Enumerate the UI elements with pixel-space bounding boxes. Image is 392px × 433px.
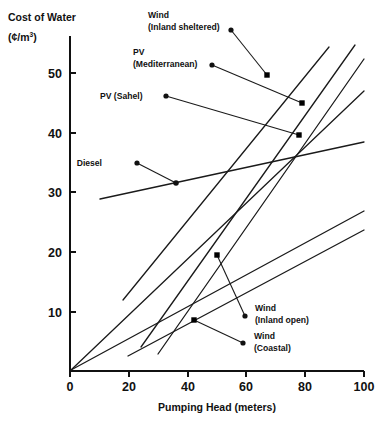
y-axis-title-line2: (¢/m3) (8, 31, 37, 43)
label-pv-mediterranean-line2: (Mediterranean) (133, 59, 198, 69)
annotation-diesel: Diesel (77, 158, 179, 186)
x-tick-label-20: 20 (122, 380, 136, 394)
target-marker-wind-inland-sheltered (264, 72, 269, 77)
anchor-dot-wind-coastal (240, 340, 245, 345)
y-tick-labels: 50 40 30 20 10 (48, 67, 62, 320)
y-tick-label-30: 30 (48, 186, 62, 200)
label-pv-mediterranean-line1: PV (133, 47, 145, 57)
target-marker-pv-mediterranean (299, 100, 304, 105)
x-tick-label-100: 100 (354, 380, 375, 394)
anchor-dot-wind-inland-sheltered (228, 27, 233, 32)
svg-text:(¢/m3): (¢/m3) (8, 31, 37, 43)
anchor-dot-diesel (134, 160, 139, 165)
series-line-wind-coastal-lower (128, 230, 364, 356)
series-line-wind-inland-sheltered (123, 47, 329, 300)
x-tick-labels: 0 20 40 60 80 100 (67, 380, 375, 394)
leader-wind-inland-sheltered (231, 30, 267, 75)
annotation-pv-mediterranean: PV (Mediterranean) (133, 47, 305, 106)
target-marker-diesel (173, 180, 179, 186)
x-tick-label-0: 0 (67, 380, 74, 394)
label-wind-inland-sheltered-line2: (Inland sheltered) (148, 22, 220, 32)
label-pv-sahel: PV (Sahel) (100, 91, 143, 101)
y-tick-label-20: 20 (48, 246, 62, 260)
chart-figure: 50 40 30 20 10 0 20 40 60 80 100 Cost of… (0, 0, 392, 433)
y-axis-units-post: ) (33, 31, 37, 43)
target-marker-pv-sahel (296, 132, 301, 137)
leader-diesel (137, 163, 176, 183)
annotation-wind-inland-open: Wind (Inland open) (214, 252, 309, 325)
leader-wind-coastal (194, 320, 243, 343)
chart-plot-area: 50 40 30 20 10 0 20 40 60 80 100 Cost of… (0, 0, 392, 433)
series-line-wind-coastal (71, 211, 364, 370)
y-tick-label-40: 40 (48, 127, 62, 141)
y-axis-title-line1: Cost of Water (8, 11, 76, 23)
leader-pv-mediterranean (212, 65, 302, 103)
x-axis-title: Pumping Head (meters) (158, 401, 276, 413)
label-wind-inland-sheltered-line1: Wind (148, 10, 169, 20)
x-tick-label-60: 60 (239, 380, 253, 394)
anchor-dot-pv-mediterranean (209, 62, 214, 67)
label-wind-inland-open-line1: Wind (255, 303, 276, 313)
x-tick-label-40: 40 (181, 380, 195, 394)
series-line-diesel (100, 142, 364, 199)
x-tick-label-80: 80 (298, 380, 312, 394)
target-marker-wind-coastal (191, 317, 196, 322)
leader-pv-sahel (166, 96, 299, 135)
series-line-pv-mediterranean (141, 45, 355, 347)
label-wind-coastal-line2: (Coastal) (254, 343, 291, 353)
annotation-pv-sahel: PV (Sahel) (100, 91, 302, 138)
anchor-dot-wind-inland-open (242, 313, 247, 318)
anchor-dot-pv-sahel (163, 93, 168, 98)
target-marker-wind-inland-open (214, 252, 219, 257)
label-wind-inland-open-line2: (Inland open) (255, 315, 309, 325)
y-tick-label-50: 50 (48, 67, 62, 81)
axis-group (70, 36, 364, 377)
y-tick-label-10: 10 (48, 306, 62, 320)
y-axis-units-pre: (¢/m (8, 31, 30, 43)
label-diesel: Diesel (77, 158, 102, 168)
label-wind-coastal-line1: Wind (254, 331, 275, 341)
series-line-wind-inland-open (71, 91, 364, 370)
